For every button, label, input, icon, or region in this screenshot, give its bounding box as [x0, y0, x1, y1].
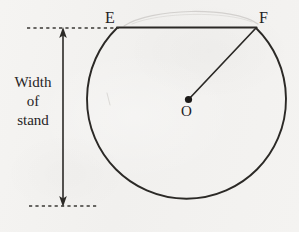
point-label-o: O: [181, 104, 192, 119]
dimension-caption-line-3: stand: [2, 111, 64, 130]
erased-pencil-arc: [124, 11, 258, 26]
point-label-e: E: [105, 10, 115, 26]
point-label-f: F: [259, 10, 268, 26]
stray-pencil-mark: [107, 93, 110, 105]
dimension-caption-line-2: of: [2, 92, 64, 111]
radius-of: [189, 29, 256, 100]
dimension-caption-line-1: Width: [2, 73, 64, 92]
dimension-caption: Width of stand: [2, 73, 64, 130]
diagram-canvas: E F O Width of stand: [0, 0, 299, 232]
